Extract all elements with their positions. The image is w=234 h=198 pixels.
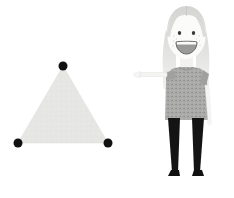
arm-pointing-forearm xyxy=(140,73,167,77)
eye-right-icon xyxy=(192,31,195,35)
shoe-right xyxy=(192,170,204,176)
mouth-teeth xyxy=(177,42,197,45)
triangle-vertex-bottom-right xyxy=(104,139,113,148)
hand-right-icon xyxy=(207,119,212,126)
arm-pointing-sleeve xyxy=(166,71,175,80)
triangle-vertex-apex xyxy=(59,62,68,71)
illustration-svg xyxy=(0,0,234,198)
illustration-canvas: Illustration of a cartoon girl pointing … xyxy=(0,0,234,198)
eye-left-icon xyxy=(178,31,181,35)
triangle-vertex-bottom-left xyxy=(14,139,23,148)
